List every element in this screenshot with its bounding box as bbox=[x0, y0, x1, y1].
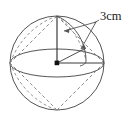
leader-joint-stroke bbox=[94, 20, 99, 23]
arrowhead-vertical-radius bbox=[64, 28, 70, 33]
radius-dimension-label: 3cm bbox=[100, 9, 122, 23]
sphere-center-dot bbox=[55, 61, 60, 66]
sphere-diagram-canvas: 3cm bbox=[0, 0, 135, 118]
slant-radius-line bbox=[57, 48, 86, 63]
sphere-radius-figure: 3cm bbox=[0, 0, 135, 118]
